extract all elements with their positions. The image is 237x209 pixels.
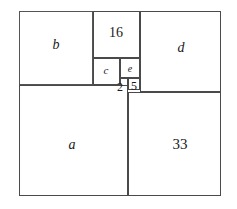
square-label-2: 2 bbox=[117, 81, 123, 93]
squared-rectangle-diagram: b 16 d c e 2 5 a 33 bbox=[0, 0, 237, 209]
square-label-e: e bbox=[128, 64, 132, 74]
square-label-d: d bbox=[178, 41, 185, 55]
square-label-16: 16 bbox=[109, 26, 123, 40]
square-label-a: a bbox=[69, 138, 76, 152]
square-label-33: 33 bbox=[173, 137, 188, 152]
square-label-5: 5 bbox=[131, 80, 137, 92]
square-label-b: b bbox=[53, 38, 60, 52]
square-label-c: c bbox=[104, 65, 109, 76]
